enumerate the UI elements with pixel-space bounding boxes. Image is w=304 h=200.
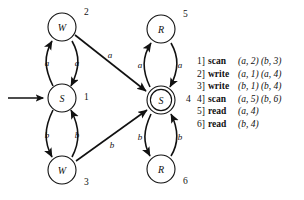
legend-row-pairs: (a, 5) (b, 6) [238, 94, 282, 104]
node-s4[interactable]: S 4 [147, 86, 191, 114]
legend-row-number: 1] [192, 56, 208, 66]
node-r5[interactable]: R 5 [147, 9, 188, 43]
legend-row-operation: scan [208, 56, 238, 66]
legend-row-number: 6] [192, 119, 208, 129]
node-s4-letter: S [159, 95, 164, 106]
legend-row: 6] read (b, 4) [192, 119, 304, 132]
legend-row-operation: write [208, 69, 238, 79]
edge-label-w3-s4: b [110, 140, 115, 150]
legend-row-number: 4] [192, 94, 208, 104]
edge-label-r5-s4: a [178, 60, 183, 70]
legend-row-number: 2] [192, 69, 208, 79]
legend-row-operation: read [208, 119, 238, 129]
edge-label-w2-s1: a [75, 58, 80, 68]
figure-canvas: S 1 W 2 W 3 S 4 R 5 R 6 [0, 0, 304, 200]
node-r6-letter: R [157, 164, 164, 175]
legend-row-operation: write [208, 81, 238, 91]
edge-label-s4-r6: b [138, 132, 143, 142]
edge-r6-to-s4 [171, 114, 177, 156]
legend-row-number: 5] [192, 106, 208, 116]
node-w3-index: 3 [84, 177, 89, 187]
legend-row: 2] write (a, 1) (a, 4) [192, 69, 304, 82]
legend-row-operation: scan [208, 94, 238, 104]
legend-row: 1] scan (a, 2) (b, 3) [192, 56, 304, 69]
legend-row-pairs: (b, 4) [238, 119, 259, 129]
operation-legend: 1] scan (a, 2) (b, 3) 2] write (a, 1) (a… [192, 56, 304, 132]
legend-row-pairs: (a, 2) (b, 3) [238, 56, 282, 66]
node-r5-letter: R [157, 24, 164, 35]
edge-label-s4-r5: a [138, 60, 143, 70]
edge-label-s1-w2: a [45, 58, 50, 68]
edge-label-w3-s1: b [75, 130, 80, 140]
legend-row-pairs: (a, 4) [238, 106, 259, 116]
edge-w2-to-s4 [75, 35, 146, 91]
edge-w3-to-s4 [76, 110, 147, 161]
node-w3[interactable]: W 3 [48, 156, 89, 187]
legend-row-pairs: (b, 1) (b, 4) [238, 81, 282, 91]
legend-row: 3] write (b, 1) (b, 4) [192, 81, 304, 94]
edge-s4-to-r5 [144, 43, 151, 87]
edge-label-r6-s4: b [178, 132, 183, 142]
legend-row-operation: read [208, 106, 238, 116]
node-r6-index: 6 [183, 176, 188, 186]
node-s1[interactable]: S 1 [48, 84, 89, 112]
legend-row-number: 3] [192, 81, 208, 91]
edge-label-s1-w3: b [45, 130, 50, 140]
node-s4-index: 4 [186, 94, 191, 104]
edge-s4-to-r6 [145, 114, 151, 156]
node-w2-index: 2 [84, 7, 89, 17]
node-w2[interactable]: W 2 [48, 7, 89, 41]
node-r6[interactable]: R 6 [147, 155, 188, 186]
legend-row: 5] read (a, 4) [192, 106, 304, 119]
legend-row: 4] scan (a, 5) (b, 6) [192, 94, 304, 107]
edge-r5-to-s4 [170, 43, 177, 87]
node-s1-letter: S [60, 93, 65, 104]
edge-label-w2-s4: a [108, 50, 113, 60]
node-s1-index: 1 [84, 92, 89, 102]
legend-row-pairs: (a, 1) (a, 4) [238, 69, 282, 79]
node-r5-index: 5 [183, 9, 188, 19]
